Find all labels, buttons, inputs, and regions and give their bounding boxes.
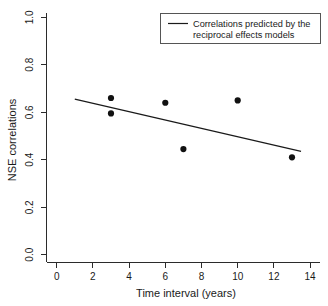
y-tick-label: 0.4 (24, 152, 35, 166)
data-point (162, 100, 168, 106)
x-tick-label: 10 (232, 271, 244, 282)
y-tick-label: 1.0 (24, 10, 35, 24)
x-axis-title: Time interval (years) (136, 287, 236, 299)
x-tick-label: 0 (54, 271, 60, 282)
data-series-layer (75, 95, 301, 161)
y-axis-title: NSE correlations (6, 98, 18, 181)
trend-line (75, 99, 301, 151)
x-tick-label: 12 (268, 271, 280, 282)
scatter-plot: 0.0 0.2 0.4 0.6 0.8 1.0 0 2 4 6 8 10 12 … (0, 0, 328, 306)
data-point (235, 97, 241, 103)
axes-frame (47, 13, 321, 263)
y-tick-label: 0.6 (24, 105, 35, 119)
y-tick-label: 0.0 (24, 247, 35, 261)
y-tick-label: 0.2 (24, 200, 35, 214)
x-tick-label: 8 (199, 271, 205, 282)
x-tick-label: 14 (305, 271, 317, 282)
x-tick-label: 4 (126, 271, 132, 282)
data-point (180, 146, 186, 152)
data-point (108, 110, 114, 116)
chart-container: 0.0 0.2 0.4 0.6 0.8 1.0 0 2 4 6 8 10 12 … (0, 0, 328, 306)
legend-label-line1: Correlations predicted by the (193, 19, 310, 29)
data-point (289, 154, 295, 160)
legend-label-line2: reciprocal effects models (193, 30, 295, 40)
y-tick-label: 0.8 (24, 57, 35, 71)
x-axis-ticks: 0 2 4 6 8 10 12 14 (54, 263, 316, 283)
data-point (108, 95, 114, 101)
y-axis-ticks: 0.0 0.2 0.4 0.6 0.8 1.0 (24, 10, 47, 262)
x-tick-label: 2 (90, 271, 96, 282)
legend: Correlations predicted by the reciprocal… (161, 14, 321, 44)
x-tick-label: 6 (163, 271, 169, 282)
